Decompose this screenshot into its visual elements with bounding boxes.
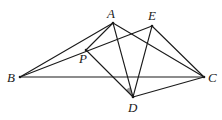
segment-ac (113, 23, 204, 77)
label-d: D (127, 100, 138, 115)
vertex-e (151, 25, 154, 28)
vertex-c (203, 76, 206, 79)
segments (20, 23, 204, 97)
label-e: E (147, 8, 156, 23)
segment-dc (133, 77, 204, 97)
vertex-b (19, 76, 22, 79)
label-b: B (7, 70, 15, 85)
geometry-diagram: AEBCPD (0, 0, 222, 120)
segment-ba (20, 23, 113, 77)
vertex-d (132, 96, 135, 99)
segment-ec (152, 26, 204, 77)
vertices (19, 22, 206, 99)
vertex-a (112, 22, 115, 25)
segment-pd (86, 50, 133, 97)
label-c: C (208, 70, 217, 85)
label-a: A (106, 6, 115, 21)
label-p: P (78, 51, 87, 66)
